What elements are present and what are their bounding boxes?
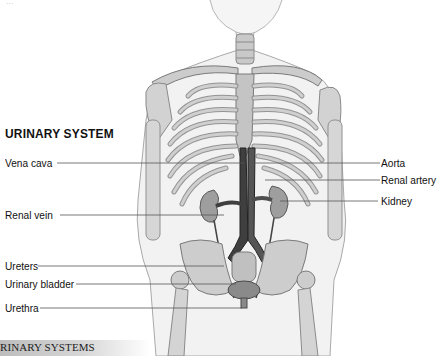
faint-header-text: ... (6, 0, 14, 6)
label-aorta: Aorta (381, 156, 405, 170)
label-urethra: Urethra (5, 301, 39, 315)
figure-caption: RINARY SYSTEMS (0, 341, 95, 353)
label-vena-cava: Vena cava (5, 156, 52, 170)
label-ureters: Ureters (5, 259, 38, 273)
label-urinary-bladder: Urinary bladder (5, 277, 74, 291)
label-renal-vein: Renal vein (5, 208, 53, 222)
label-renal-artery: Renal artery (381, 173, 436, 187)
urinary-system-diagram: ... URINARY SYSTEM Vena cava Renal vein … (0, 0, 438, 356)
diagram-title: URINARY SYSTEM (5, 126, 114, 141)
anatomy-illustration (0, 0, 438, 356)
label-kidney: Kidney (381, 194, 412, 208)
